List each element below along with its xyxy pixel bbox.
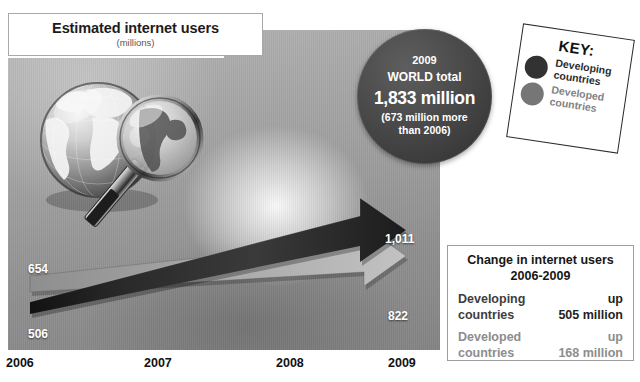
change-row-developed: Developed up countries 168 million [458,329,623,361]
year-axis: 2006 2007 2008 2009 [0,352,440,382]
value-label-developing-end: 1,011 [385,232,414,246]
change-box-title: Change in internet users 2006-2009 [458,253,623,284]
legend-swatch-grey-circle-icon [519,81,545,107]
trend-arrows [8,30,440,350]
legend-swatch-dark-circle-icon [523,54,549,80]
axis-label-2006: 2006 [6,356,34,370]
change-developed-label-line2: countries [458,345,514,361]
change-developed-label-line1: Developed [458,329,521,345]
change-developing-value-line1: up [608,291,623,307]
infographic-canvas: Estimated internet users (millions) 2009… [0,0,640,382]
change-box-rows: Developing up countries 505 million Deve… [458,291,623,361]
value-label-developed-start: 654 [28,262,48,276]
change-developing-label-line1: Developing [458,291,525,307]
key-legend-box: KEY: Developing countries Developed coun… [506,23,635,153]
change-box-title-line2: 2006-2009 [458,269,623,285]
value-label-developed-end: 822 [388,309,408,323]
key-item-developed-label: Developed countries [549,84,605,115]
axis-label-2008: 2008 [276,356,304,370]
change-box-title-line1: Change in internet users [458,253,623,269]
change-summary-box: Change in internet users 2006-2009 Devel… [447,245,634,361]
change-developed-value-line1: up [608,329,623,345]
change-developing-label-line2: countries [458,307,514,323]
change-developing-value-line2: 505 million [558,307,623,323]
change-row-developing: Developing up countries 505 million [458,291,623,323]
axis-label-2009: 2009 [388,356,416,370]
value-label-developing-start: 506 [28,327,48,341]
change-developed-value-line2: 168 million [558,345,623,361]
axis-label-2007: 2007 [144,356,172,370]
